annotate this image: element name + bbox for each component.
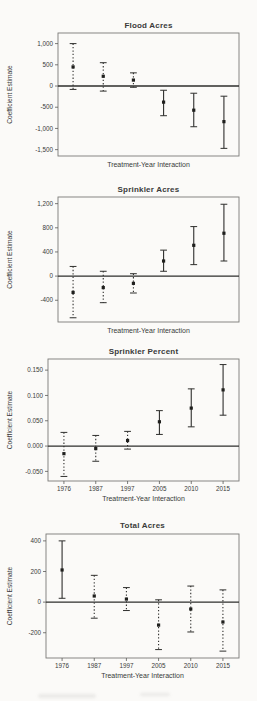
y-tick-label: 0 xyxy=(37,598,41,605)
chart-title: Flood Acres xyxy=(124,21,172,30)
estimate-marker-1987 xyxy=(93,594,96,597)
estimate-marker-1976 xyxy=(71,291,74,294)
estimate-marker-2010 xyxy=(190,407,193,410)
estimate-marker-1997 xyxy=(125,597,128,600)
y-tick-label: -1,500 xyxy=(35,146,53,153)
estimate-marker-1997 xyxy=(126,439,129,442)
estimate-marker-1976 xyxy=(60,568,63,571)
y-tick-label: 0.000 xyxy=(27,442,43,449)
plot-area xyxy=(46,534,239,658)
y-tick-label: -0.050 xyxy=(25,468,43,475)
x-tick-label: 1976 xyxy=(57,485,72,492)
figure-canvas: Flood AcresCoefficient Estimate1,0005000… xyxy=(0,0,257,701)
estimate-marker-2015 xyxy=(222,232,225,235)
y-tick-label: -500 xyxy=(40,103,53,110)
estimate-marker-1987 xyxy=(102,286,105,289)
x-tick-label: 2010 xyxy=(184,662,199,669)
estimate-marker-2005 xyxy=(158,420,161,423)
estimate-marker-2010 xyxy=(189,607,192,610)
y-axis-label: Coefficient Estimate xyxy=(6,390,13,449)
estimate-marker-2015 xyxy=(221,620,224,623)
y-tick-label: 800 xyxy=(42,224,53,231)
y-axis-label: Coefficient Estimate xyxy=(6,65,13,124)
x-axis-label: Treatment-Year Interaction xyxy=(107,161,190,168)
estimate-marker-2010 xyxy=(192,244,195,247)
estimate-marker-1997 xyxy=(132,78,135,81)
estimate-marker-2015 xyxy=(222,120,225,123)
estimate-marker-1976 xyxy=(71,65,74,68)
x-tick-label: 1987 xyxy=(89,485,104,492)
estimate-marker-2015 xyxy=(221,388,224,391)
y-tick-label: 0 xyxy=(49,82,53,89)
x-tick-label: 2005 xyxy=(152,485,167,492)
y-tick-label: 0.050 xyxy=(27,417,43,424)
x-tick-label: 2015 xyxy=(216,485,231,492)
estimate-marker-1997 xyxy=(132,282,135,285)
x-tick-label: 2005 xyxy=(152,662,167,669)
scan-artifact xyxy=(140,693,170,696)
y-tick-label: -400 xyxy=(40,296,53,303)
estimate-marker-2005 xyxy=(162,101,165,104)
y-tick-label: 200 xyxy=(30,568,41,575)
estimate-marker-2005 xyxy=(162,259,165,262)
y-tick-label: -1,000 xyxy=(35,125,53,132)
y-tick-label: 500 xyxy=(42,61,53,68)
x-tick-label: 1987 xyxy=(87,662,102,669)
y-tick-label: 0.100 xyxy=(27,392,43,399)
y-axis-label: Coefficient Estimate xyxy=(6,566,13,625)
chart-total-acres: Total AcresCoefficient Estimate4002000-2… xyxy=(6,521,239,679)
x-axis-label: Treatment-Year Interaction xyxy=(102,495,185,502)
x-tick-label: 1997 xyxy=(119,662,134,669)
x-axis-label: Treatment-Year Interaction xyxy=(107,327,190,334)
chart-sprinkler-percent: Sprinkler PercentCoefficient Estimate0.1… xyxy=(6,347,239,502)
chart-flood-acres: Flood AcresCoefficient Estimate1,0005000… xyxy=(6,21,239,168)
x-axis-label: Treatment-Year Interaction xyxy=(101,672,184,679)
y-tick-label: 0 xyxy=(49,272,53,279)
y-axis-label: Coefficient Estimate xyxy=(6,230,13,289)
x-tick-label: 2015 xyxy=(216,662,231,669)
plot-area xyxy=(58,197,239,322)
estimate-marker-1987 xyxy=(102,75,105,78)
plot-area xyxy=(48,359,239,481)
coefficient-plot-figure: Flood AcresCoefficient Estimate1,0005000… xyxy=(0,0,257,701)
x-tick-label: 1976 xyxy=(55,662,70,669)
chart-title: Sprinkler Acres xyxy=(118,185,180,194)
y-tick-label: 1,000 xyxy=(37,40,53,47)
scan-artifact xyxy=(38,694,96,698)
estimate-marker-1976 xyxy=(62,452,65,455)
x-tick-label: 1997 xyxy=(121,485,136,492)
chart-sprinkler-acres: Sprinkler AcresCoefficient Estimate1,200… xyxy=(6,185,239,334)
y-tick-label: 1,200 xyxy=(37,200,53,207)
chart-title: Total Acres xyxy=(120,521,165,530)
chart-title: Sprinkler Percent xyxy=(109,347,179,356)
y-tick-label: -200 xyxy=(28,629,41,636)
estimate-marker-2005 xyxy=(157,623,160,626)
y-tick-label: 0.150 xyxy=(27,366,43,373)
y-tick-label: 400 xyxy=(42,248,53,255)
y-tick-label: 400 xyxy=(30,537,41,544)
plot-area xyxy=(58,33,239,156)
estimate-marker-1987 xyxy=(94,447,97,450)
estimate-marker-2010 xyxy=(192,109,195,112)
x-tick-label: 2010 xyxy=(184,485,199,492)
